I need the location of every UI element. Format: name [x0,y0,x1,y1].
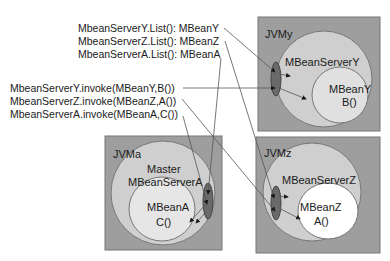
mbean-server-z: MBeanServerZ [282,174,356,186]
connector-y [271,62,281,96]
jvm-y-box: JVMy MBeanServerY MBeanY B() [258,17,380,131]
invoke-call-a: MbeanServerA.invoke(MBeanA,C()) [10,108,178,121]
mbean-z-method: A() [314,215,329,227]
jvm-y-label: JVMy [265,28,293,40]
list-call-z: MbeanServerZ.List(): MBeanZ [78,35,219,48]
connector-z [271,186,281,220]
invoke-call-y: MbeanServerY.invoke(MBeanY,B()) [10,82,175,95]
list-call-y: MbeanServerY.List(): MBeanY [78,22,219,35]
jvm-z-label: JVMz [264,147,292,159]
mbean-a-method: C() [156,216,171,228]
invoke-call-z: MbeanServerZ.invoke(MBeanZ,A()) [10,95,176,108]
mbean-y-method: B() [342,96,357,108]
jvm-a-box: JVMa Master MBeanServerA MBeanA C() [105,136,222,250]
mbean-z: MBeanZ [300,201,342,213]
list-call-a: MbeanServerA.List(): MBeanA [78,48,220,61]
jvm-z-box: JVMz MBeanServerZ MBeanZ A() [256,137,380,253]
mbean-a: MBeanA [147,201,190,213]
mbean-y: MBeanY [329,83,372,95]
jvm-a-label: JVMa [113,148,142,160]
mbean-server-y: MBeanServerY [285,56,360,68]
mbean-server-a-line2: MBeanServerA [128,176,203,188]
mbean-server-a-line1: Master [147,163,181,175]
